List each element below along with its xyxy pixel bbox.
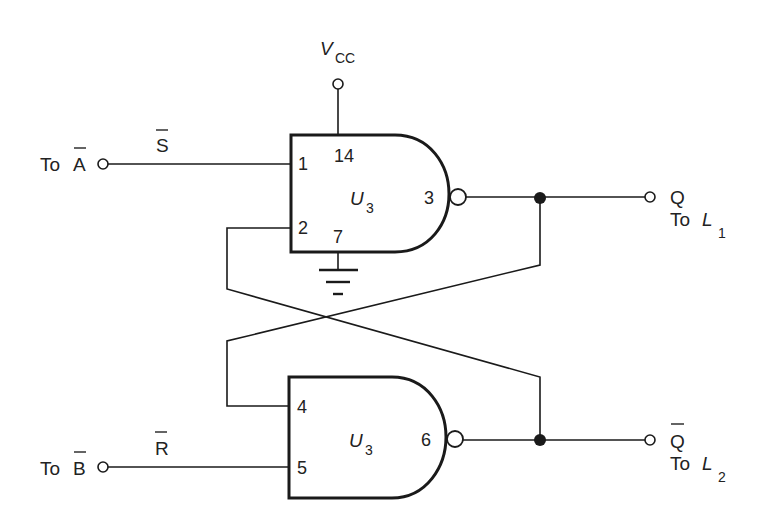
q-label: Q [670,187,685,208]
l2-prefix: To [670,453,690,474]
lower-pin-5: 5 [297,458,307,478]
l2-label: L [702,453,713,474]
vcc-terminal [333,79,343,89]
l1-label: L [702,209,713,230]
set-input: To A S [40,130,291,175]
upper-pin-1: 1 [298,154,308,174]
upper-pin-3: 3 [424,188,434,208]
upper-pin-7: 7 [333,227,343,247]
sr-latch-schematic: V CC 1 2 14 7 3 U 3 To A S To B [0,0,766,522]
lower-pin-6: 6 [421,430,431,450]
s-bar-label: S [156,135,169,156]
input-b-terminal [98,462,108,472]
vcc-supply: V CC [320,38,355,135]
lower-gate-label: U [349,430,363,451]
lower-gate-subscript: 3 [365,442,373,458]
ground-symbol [319,252,358,294]
feedback-wire-qbar-to-pin2 [227,228,540,440]
upper-gate-inversion-bubble [450,189,466,205]
l1-subscript: 1 [718,225,726,241]
l2-subscript: 2 [718,469,726,485]
upper-gate-label: U [350,188,364,209]
vcc-subscript: CC [335,50,355,66]
lower-gate-inversion-bubble [447,431,463,447]
upper-gate-subscript: 3 [366,200,374,216]
upper-pin-14: 14 [334,146,354,166]
upper-nand-gate: 1 2 14 7 3 U 3 [291,135,466,252]
q-bar-output: Q To L 2 [463,424,726,485]
vcc-label: V [320,38,335,59]
q-bar-junction-dot [534,434,546,446]
lower-nand-gate: 4 5 6 U 3 [289,377,463,498]
q-bar-label: Q [670,431,685,452]
input-b-signal: B [73,458,86,479]
q-output: Q To L 1 [466,187,726,241]
cross-coupling-wires [227,198,540,440]
q-junction-dot [534,192,546,204]
input-a-signal: A [73,154,86,175]
q-bar-terminal [645,435,655,445]
input-a-prefix: To [40,154,60,175]
r-bar-label: R [155,438,169,459]
q-terminal [645,192,655,202]
input-a-terminal [98,159,108,169]
upper-pin-2: 2 [298,218,308,238]
l1-prefix: To [670,209,690,230]
input-b-prefix: To [40,458,60,479]
lower-pin-4: 4 [297,397,307,417]
reset-input: To B R [40,432,289,479]
